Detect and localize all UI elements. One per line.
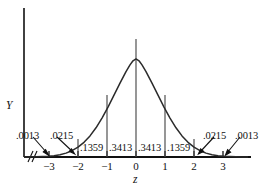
area-label-right-inner: .3413 [138, 143, 161, 154]
xtick-label-minus-1: −1 [101, 161, 113, 172]
area-label-left-inner: .3413 [109, 143, 132, 154]
normal-distribution-figure: Y z .0013 .0215 .1359 .3413 .3413 .1359 … [0, 0, 267, 189]
xtick-label-1: 1 [162, 161, 168, 172]
area-label-left-outer: .0013 [16, 131, 39, 142]
xtick-label-minus-2: −2 [72, 161, 84, 172]
y-axis-title: Y [6, 100, 12, 112]
xtick-label-3: 3 [220, 161, 226, 172]
area-label-left-tail: .0215 [50, 131, 73, 142]
xtick-label-0: 0 [133, 161, 139, 172]
xtick-label-minus-3: −3 [43, 161, 55, 172]
area-label-left-mid: .1359 [80, 143, 103, 154]
ordinate-lines [78, 39, 194, 157]
xtick-label-2: 2 [191, 161, 197, 172]
area-label-right-mid: .1359 [167, 143, 190, 154]
area-label-right-outer: .0013 [235, 131, 258, 142]
x-axis-title: z [133, 174, 137, 186]
area-label-right-tail: .0215 [203, 131, 226, 142]
